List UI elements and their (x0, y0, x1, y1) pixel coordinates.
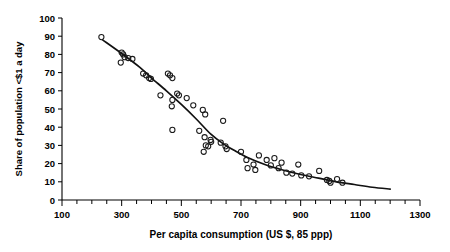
data-point (244, 157, 249, 162)
y-tick-label: 10 (44, 176, 55, 187)
y-tick-label: 80 (44, 49, 55, 60)
y-tick-label: 0 (50, 195, 55, 206)
data-point (317, 168, 322, 173)
data-point (184, 95, 189, 100)
y-tick-label: 60 (44, 85, 55, 96)
data-point (296, 162, 301, 167)
data-point (202, 135, 207, 140)
data-point (256, 153, 261, 158)
data-point (279, 160, 284, 165)
data-point (201, 149, 206, 154)
y-tick-label: 40 (44, 122, 55, 133)
x-tick-label: 500 (173, 209, 189, 220)
x-axis-title: Per capita consumption (US $, 85 ppp) (150, 229, 333, 240)
data-point (264, 157, 269, 162)
data-point (197, 128, 202, 133)
x-tick-label: 300 (114, 209, 130, 220)
data-point (253, 167, 258, 172)
data-point (99, 35, 104, 40)
y-tick-label: 30 (44, 140, 55, 151)
data-point (118, 60, 123, 65)
y-tick-label: 90 (44, 31, 55, 42)
x-tick-label: 1100 (350, 209, 371, 220)
data-point (221, 118, 226, 123)
x-tick-label: 100 (54, 209, 70, 220)
y-tick-label: 20 (44, 158, 55, 169)
data-point (245, 166, 250, 171)
data-point (203, 112, 208, 117)
y-tick-label: 50 (44, 104, 55, 115)
data-point (158, 93, 163, 98)
fit-curve (103, 40, 391, 189)
y-axis-title: Share of population <$1 a day (13, 41, 24, 177)
x-tick-label: 1300 (409, 209, 430, 220)
data-point (170, 97, 175, 102)
x-tick-label: 900 (293, 209, 309, 220)
data-point (191, 103, 196, 108)
data-point (251, 162, 256, 167)
chart-container: 0102030405060708090100100300500700900110… (0, 0, 450, 252)
y-tick-label: 100 (39, 13, 55, 24)
data-point (272, 156, 277, 161)
data-point (334, 176, 339, 181)
scatter-chart: 0102030405060708090100100300500700900110… (0, 0, 450, 252)
y-tick-label: 70 (44, 67, 55, 78)
x-tick-label: 700 (233, 209, 249, 220)
data-point (170, 127, 175, 132)
data-point (169, 104, 174, 109)
